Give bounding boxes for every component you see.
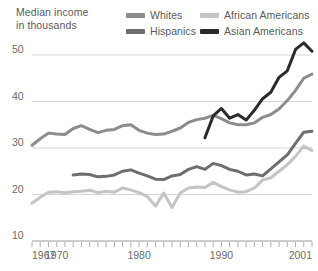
- x-tick-label-1990: 1990: [210, 249, 234, 261]
- y-tick-label-20: 20: [12, 183, 24, 195]
- chart-x-tick-labels: 19671970198019902001: [32, 249, 312, 261]
- x-tick-label-1970: 1970: [45, 249, 69, 261]
- chart-container: Median income in thousands Whites Africa…: [0, 0, 318, 271]
- y-tick-label-50: 50: [12, 43, 24, 55]
- y-tick-label-40: 40: [12, 90, 24, 102]
- chart-plot-area: 5040302010 19671970198019902001: [0, 0, 318, 271]
- y-tick-label-10: 10: [12, 229, 24, 241]
- chart-y-tick-labels: 5040302010: [12, 43, 24, 241]
- x-tick-label-2001: 2001: [289, 249, 313, 261]
- chart-gridlines: [32, 55, 312, 241]
- chart-x-ticks: [32, 242, 312, 247]
- x-tick-label-1980: 1980: [127, 249, 151, 261]
- chart-series-lines: [32, 43, 312, 208]
- y-tick-label-30: 30: [12, 136, 24, 148]
- series-line-whites: [32, 74, 312, 145]
